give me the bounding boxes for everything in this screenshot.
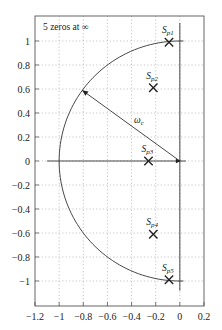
- pole-markers: Sp1Sp2Sp3Sp4Sp5: [141, 25, 174, 284]
- pole-label-p2: Sp2: [146, 71, 158, 83]
- zeros-annotation: 5 zeros at ∞: [43, 22, 89, 32]
- pole-label-p4: Sp4: [146, 217, 158, 229]
- x-tick-label: 0.2: [198, 311, 211, 322]
- tick-labels: −1.2−1−0.8−0.6−0.4−0.200.210.80.60.40.20…: [12, 36, 210, 323]
- pole-marker-p2: [149, 84, 157, 92]
- y-tick-label: −0.8: [12, 252, 30, 263]
- x-tick-label: −0.2: [147, 311, 165, 322]
- x-tick-label: 0: [177, 311, 182, 322]
- x-tick-label: −0.8: [74, 311, 92, 322]
- x-tick-label: −1.2: [26, 311, 44, 322]
- radius-arrow: [82, 90, 180, 161]
- x-tick-label: −1: [54, 311, 65, 322]
- omega-c-label: ωc: [134, 115, 145, 127]
- axes: [35, 23, 204, 306]
- y-tick-label: 0.2: [18, 132, 31, 143]
- x-tick-label: −0.4: [123, 311, 141, 322]
- y-tick-label: −0.6: [12, 228, 30, 239]
- pole-label-p1: Sp1: [162, 25, 174, 37]
- pole-label-p3: Sp3: [141, 144, 153, 156]
- y-tick-label: 0.6: [18, 84, 31, 95]
- y-tick-label: −0.4: [12, 204, 30, 215]
- pole-label-p5: Sp5: [162, 263, 174, 275]
- y-tick-label: 0: [25, 156, 30, 167]
- x-tick-label: −0.6: [98, 311, 116, 322]
- pole-marker-p4: [149, 230, 157, 238]
- y-tick-label: 0.4: [18, 108, 31, 119]
- y-tick-label: −0.2: [12, 180, 30, 191]
- y-tick-label: 0.8: [18, 60, 31, 71]
- y-tick-label: 1: [25, 36, 30, 47]
- y-tick-label: −1: [19, 276, 30, 287]
- pole-zero-plot: ωc Sp1Sp2Sp3Sp4Sp5 −1.2−1−0.8−0.6−0.4−0.…: [0, 0, 222, 330]
